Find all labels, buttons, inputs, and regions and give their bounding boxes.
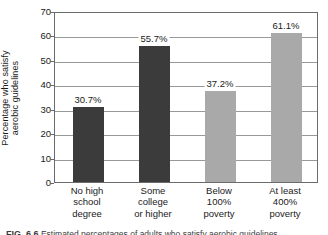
bar[interactable]: 37.2% (205, 91, 236, 182)
x-axis-category-label: No highschooldegree (51, 185, 123, 219)
plot-area: 30.7%55.7%37.2%61.1% (54, 12, 318, 183)
x-axis-category-label-line: or higher (117, 208, 189, 219)
y-axis-tick-label: 10 (21, 154, 51, 164)
figure-container: Percentage who satisfy aerobic guideline… (0, 0, 328, 235)
y-axis-tick-labels: 706050403020100 (20, 0, 51, 235)
figure-caption: FIG. 6.6 Estimated percentages of adults… (6, 229, 326, 235)
bar-value-label: 30.7% (73, 95, 104, 105)
y-axis-tick-label: 50 (21, 56, 51, 66)
x-axis-category-label-line: Some (117, 185, 189, 196)
x-axis-category-label-line: degree (51, 208, 123, 219)
bar[interactable]: 61.1% (271, 33, 302, 182)
x-axis-category-label: At least400%poverty (249, 185, 321, 219)
y-axis-title-line2: aerobic guidelines (10, 50, 20, 145)
y-axis-tick-label: 20 (21, 129, 51, 139)
x-axis-category-label-line: 400% (249, 196, 321, 207)
x-axis-category-label-line: At least (249, 185, 321, 196)
bar-value-label: 37.2% (205, 79, 236, 89)
y-axis-tickmark (50, 183, 54, 184)
bar[interactable]: 55.7% (139, 46, 170, 182)
x-axis-category-label-line: poverty (183, 208, 255, 219)
x-axis-category-label-line: college (117, 196, 189, 207)
x-axis-category-label: Somecollegeor higher (117, 185, 189, 219)
bar[interactable]: 30.7% (73, 107, 104, 182)
y-axis-tick-label: 70 (21, 7, 51, 17)
y-axis-tick-label: 30 (21, 105, 51, 115)
y-axis-title-line1: Percentage who satisfy (0, 50, 10, 145)
x-axis-category-label-line: school (51, 196, 123, 207)
y-axis-tick-label: 60 (21, 32, 51, 42)
figure-number: FIG. 6.6 (6, 229, 39, 235)
y-axis-title: Percentage who satisfy aerobic guideline… (0, 12, 20, 183)
x-axis-category-labels: No highschooldegreeSomecollegeor higherB… (54, 185, 318, 229)
y-axis-tick-label: 0 (21, 178, 51, 188)
x-axis-category-label: Below100%poverty (183, 185, 255, 219)
bar-series: 30.7%55.7%37.2%61.1% (55, 13, 317, 182)
figure-caption-text: Estimated percentages of adults who sati… (41, 229, 280, 235)
x-axis-category-label-line: 100% (183, 196, 255, 207)
x-axis-category-label-line: No high (51, 185, 123, 196)
x-axis-category-label-line: Below (183, 185, 255, 196)
bar-value-label: 61.1% (271, 21, 302, 31)
y-axis-tick-label: 40 (21, 81, 51, 91)
x-axis-category-label-line: poverty (249, 208, 321, 219)
bar-value-label: 55.7% (139, 34, 170, 44)
